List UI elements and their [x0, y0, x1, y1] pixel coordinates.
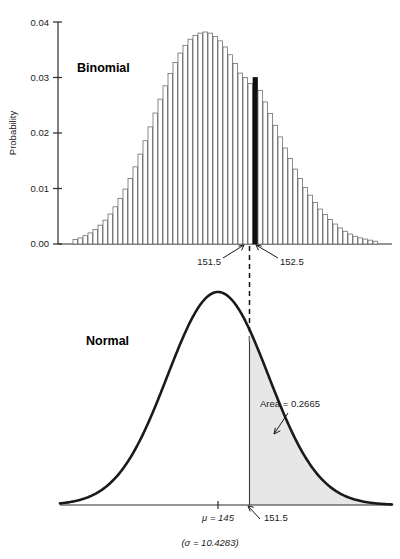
- histogram-bar: [223, 47, 228, 244]
- histogram-bar: [73, 240, 78, 244]
- histogram-bar: [273, 125, 278, 244]
- histogram-bar: [318, 209, 323, 244]
- histogram-bar: [263, 102, 268, 244]
- sigma-caption: (σ = 10.4283): [181, 537, 238, 548]
- histogram-bar: [168, 74, 173, 244]
- cutoff-label: 151.5: [264, 512, 288, 523]
- mean-label: μ = 145: [201, 512, 235, 523]
- histogram-bar: [278, 137, 283, 244]
- highlighted-bar: [253, 78, 258, 245]
- histogram-bar: [203, 32, 208, 244]
- histogram-bar: [188, 39, 193, 244]
- binomial-bound-arrows: [223, 245, 278, 258]
- lower-bound-label: 151.5: [197, 256, 221, 267]
- histogram-bar: [233, 64, 238, 244]
- histogram-bar: [128, 179, 133, 244]
- histogram-bar: [363, 239, 368, 244]
- histogram-bar: [98, 225, 103, 244]
- histogram-bar: [93, 230, 98, 244]
- histogram-bar: [288, 159, 293, 244]
- histogram-bar: [308, 195, 313, 244]
- binomial-y-axis-title: Probability: [7, 111, 18, 156]
- histogram-bar: [178, 53, 183, 244]
- area-label: Area = 0.2665: [260, 398, 320, 409]
- histogram-bar: [348, 234, 353, 244]
- histogram-bar: [83, 236, 88, 244]
- histogram-bar: [198, 33, 203, 244]
- histogram-bar: [313, 202, 318, 244]
- histogram-bar: [143, 141, 148, 244]
- histogram-bar: [243, 78, 248, 245]
- histogram-bar: [118, 198, 123, 244]
- normal-distribution-curve: [60, 292, 392, 504]
- histogram-bar: [218, 41, 223, 244]
- histogram-bar: [138, 154, 143, 244]
- histogram-bar: [183, 45, 188, 244]
- binomial-panel-label: Binomial: [77, 61, 130, 75]
- histogram-bar: [333, 224, 338, 244]
- histogram-bar: [368, 240, 373, 244]
- histogram-bar: [238, 73, 243, 244]
- histogram-bar: [248, 84, 253, 244]
- y-tick-label-3: 0.03: [31, 72, 50, 83]
- y-tick-label-0: 0.00: [31, 238, 50, 249]
- histogram-bar: [173, 63, 178, 244]
- histogram-bar: [123, 189, 128, 244]
- histogram-bar: [133, 167, 138, 244]
- upper-bound-label: 152.5: [280, 256, 304, 267]
- histogram-bar: [113, 207, 118, 244]
- figure-canvas: 0.00 0.01 0.02 0.03 0.04 Probability Bin…: [0, 0, 400, 559]
- normal-panel-label: Normal: [86, 334, 129, 348]
- histogram-bar: [283, 148, 288, 244]
- histogram-bar: [298, 179, 303, 244]
- histogram-bar: [153, 113, 158, 244]
- histogram-bar: [193, 35, 198, 244]
- histogram-bar: [108, 214, 113, 244]
- histogram-bar: [268, 114, 273, 244]
- statistics-figure: 0.00 0.01 0.02 0.03 0.04 Probability Bin…: [0, 0, 400, 559]
- y-tick-label-1: 0.01: [31, 183, 50, 194]
- histogram-bar: [258, 90, 263, 244]
- histogram-bar: [343, 231, 348, 244]
- histogram-bar: [373, 241, 378, 244]
- histogram-bar: [163, 86, 168, 244]
- histogram-bar: [158, 99, 163, 244]
- histogram-bar: [353, 236, 358, 244]
- histogram-bar: [88, 233, 93, 244]
- histogram-bar: [148, 127, 153, 244]
- histogram-bar: [293, 169, 298, 244]
- histogram-bar: [213, 36, 218, 244]
- histogram-bar: [103, 220, 108, 244]
- histogram-bar: [358, 238, 363, 244]
- histogram-bar: [78, 238, 83, 244]
- histogram-bar: [208, 33, 213, 244]
- y-tick-label-4: 0.04: [31, 17, 50, 28]
- histogram-bar: [338, 228, 343, 244]
- histogram-bar: [303, 187, 308, 244]
- histogram-bar: [323, 215, 328, 244]
- normal-panel: Normal Area = 0.2665 μ = 145 151.5 (σ = …: [60, 292, 392, 548]
- y-tick-label-2: 0.02: [31, 127, 50, 138]
- binomial-panel: 0.00 0.01 0.02 0.03 0.04 Probability Bin…: [7, 17, 392, 268]
- cutoff-leader-arrow: [248, 506, 260, 519]
- histogram-bar: [328, 220, 333, 244]
- histogram-bar: [228, 55, 233, 244]
